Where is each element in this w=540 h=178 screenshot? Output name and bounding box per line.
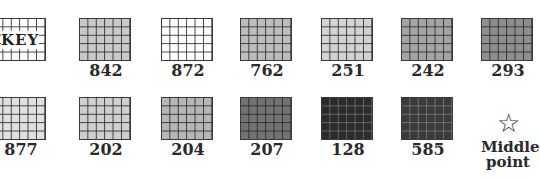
swatch-grid (240, 18, 292, 61)
color-swatch-877: 877 (0, 97, 48, 158)
middle-point-marker: ☆ Middle point (481, 110, 535, 170)
color-swatch-251: 251 (321, 18, 375, 79)
key-swatch: KEY (0, 18, 48, 61)
color-swatch-128: 128 (321, 97, 375, 158)
key-grid: KEY (0, 18, 46, 61)
swatch-label: 202 (79, 142, 133, 158)
swatch-label: 293 (481, 63, 535, 79)
color-swatch-207: 207 (240, 97, 294, 158)
swatch-grid (321, 97, 373, 140)
color-swatch-293: 293 (481, 18, 535, 79)
color-swatch-202: 202 (79, 97, 133, 158)
swatch-grid (0, 97, 46, 140)
swatch-label: 207 (240, 142, 294, 158)
swatch-grid (79, 97, 131, 140)
color-swatch-762: 762 (240, 18, 294, 79)
swatch-grid (401, 97, 453, 140)
swatch-label: 842 (79, 63, 133, 79)
color-swatch-872: 872 (161, 18, 215, 79)
swatch-grid (401, 18, 453, 61)
color-swatch-842: 842 (79, 18, 133, 79)
swatch-label: 128 (321, 142, 375, 158)
swatch-label: 242 (401, 63, 455, 79)
swatch-label: 877 (0, 142, 48, 158)
swatch-label: 585 (401, 142, 455, 158)
swatch-grid (240, 97, 292, 140)
swatch-label: 762 (240, 63, 294, 79)
color-swatch-204: 204 (161, 97, 215, 158)
star-outline-icon: ☆ (481, 110, 535, 136)
swatch-label: 872 (161, 63, 215, 79)
middle-point-label-line2: point (481, 155, 535, 170)
swatch-grid (321, 18, 373, 61)
key-label: KEY (1, 31, 39, 49)
swatch-grid (161, 97, 213, 140)
swatch-grid (79, 18, 131, 61)
color-swatch-585: 585 (401, 97, 455, 158)
swatch-label: 251 (321, 63, 375, 79)
color-swatch-242: 242 (401, 18, 455, 79)
swatch-label: 204 (161, 142, 215, 158)
swatch-grid (481, 18, 533, 61)
swatch-grid (161, 18, 213, 61)
